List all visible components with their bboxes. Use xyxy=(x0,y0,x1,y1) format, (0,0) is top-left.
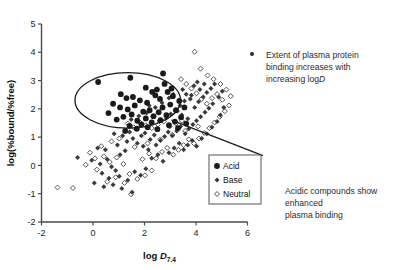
y-axis-title-text: log(%bound/%free) xyxy=(5,80,16,167)
y-tick-label: 5 xyxy=(30,19,35,29)
legend-label-acid[interactable]: Acid xyxy=(223,161,240,171)
top-annotation-line: binding increases with xyxy=(266,62,351,72)
data-point-acid xyxy=(167,102,173,108)
data-point-acid xyxy=(154,87,160,93)
legend-label-neutral[interactable]: Neutral xyxy=(223,189,251,199)
data-point-acid xyxy=(160,71,166,77)
x-tick-label: 4 xyxy=(193,228,198,238)
data-point-acid xyxy=(127,75,133,81)
data-point-acid xyxy=(176,98,182,104)
data-point-acid xyxy=(178,114,184,120)
data-point-acid xyxy=(130,94,136,100)
legend-marker-acid xyxy=(214,163,220,169)
data-point-acid xyxy=(163,112,169,118)
y-tick-label: -2 xyxy=(27,217,35,227)
bottom-annotation-line: enhanced xyxy=(285,198,323,208)
data-point-acid xyxy=(147,107,153,113)
data-point-acid xyxy=(160,105,166,111)
data-point-acid xyxy=(175,125,181,131)
data-point-acid xyxy=(117,105,123,111)
chart-canvas: 543210-1-2 -20246 log(%bound/%free) log … xyxy=(0,0,413,270)
annotation-bullet-icon xyxy=(250,52,254,56)
data-point-acid xyxy=(151,113,157,119)
y-tick-label: 0 xyxy=(30,161,35,171)
x-tick-label: -2 xyxy=(37,228,45,238)
data-point-acid xyxy=(125,107,131,113)
data-point-acid xyxy=(106,110,112,116)
data-point-acid xyxy=(124,95,130,101)
y-tick-label: 1 xyxy=(30,132,35,142)
data-point-acid xyxy=(152,92,158,98)
data-point-acid xyxy=(154,126,160,132)
data-point-acid xyxy=(120,114,126,120)
data-point-acid xyxy=(132,103,138,109)
top-annotation-line: Extent of plasma protein xyxy=(266,50,359,60)
data-point-acid xyxy=(157,96,163,102)
data-point-acid xyxy=(144,100,150,106)
data-point-acid xyxy=(143,85,149,91)
data-point-acid xyxy=(129,112,135,118)
data-point-acid xyxy=(118,91,124,97)
x-tick-label: 2 xyxy=(142,228,147,238)
data-point-acid xyxy=(156,109,162,115)
data-point-acid xyxy=(114,117,120,123)
scatter-chart-figure: 543210-1-2 -20246 log(%bound/%free) log … xyxy=(0,0,413,270)
data-point-acid xyxy=(122,128,128,134)
y-tick-label: 2 xyxy=(30,104,35,114)
bottom-annotation-line: plasma binding xyxy=(285,210,343,220)
x-tick-label: 6 xyxy=(245,228,250,238)
data-point-acid xyxy=(170,93,176,99)
data-point-acid xyxy=(140,109,146,115)
data-point-acid xyxy=(166,122,172,128)
data-point-acid xyxy=(110,101,116,107)
top-annotation-line: increasing logD xyxy=(266,74,325,84)
data-point-acid xyxy=(143,116,149,122)
y-tick-label: -1 xyxy=(27,189,35,199)
chart-legend[interactable]: AcidBaseNeutral xyxy=(209,155,261,204)
data-point-acid xyxy=(182,105,188,111)
bottom-annotation-line: Acidic compounds show xyxy=(285,186,378,196)
y-tick-label: 4 xyxy=(30,47,35,57)
legend-label-base[interactable]: Base xyxy=(223,175,243,185)
data-point-acid xyxy=(134,126,140,132)
y-tick-label: 3 xyxy=(30,76,35,86)
x-tick-label: 0 xyxy=(90,228,95,238)
y-axis-title: log(%bound/%free) xyxy=(5,80,16,167)
data-point-acid xyxy=(137,97,143,103)
data-point-acid xyxy=(95,79,101,85)
